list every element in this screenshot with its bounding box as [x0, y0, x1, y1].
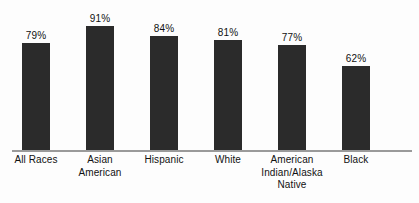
bar: [342, 66, 370, 150]
baseline-axis: [12, 150, 412, 152]
bar-group: 81%: [196, 0, 260, 150]
category-label-line: Native: [253, 179, 331, 192]
bar-group: 84%: [132, 0, 196, 150]
bar-group: 79%: [4, 0, 68, 150]
bar-value-label: 79%: [26, 30, 46, 41]
category-axis: All Races AsianAmerican Hispanic White A…: [0, 154, 419, 203]
category-label: Black: [317, 154, 395, 167]
bar-value-label: 91%: [90, 13, 110, 24]
bar: [22, 43, 50, 150]
bar: [150, 36, 178, 150]
category-label-line: Black: [317, 154, 395, 167]
bar: [278, 45, 306, 150]
plot-area: 79% 91% 84% 81% 77% 62%: [0, 0, 419, 150]
bar-value-label: 77%: [282, 32, 302, 43]
category-label-line: American: [61, 167, 139, 180]
category-label-line: Indian/Alaska: [253, 167, 331, 180]
bar-value-label: 84%: [154, 23, 174, 34]
bar-chart: 79% 91% 84% 81% 77% 62% All Races AsianA…: [0, 0, 419, 203]
bar: [214, 40, 242, 150]
bar-group: 91%: [68, 0, 132, 150]
bar: [86, 26, 114, 150]
bar-group: 62%: [324, 0, 388, 150]
bar-value-label: 62%: [346, 53, 366, 64]
bar-group: 77%: [260, 0, 324, 150]
bar-value-label: 81%: [218, 27, 238, 38]
